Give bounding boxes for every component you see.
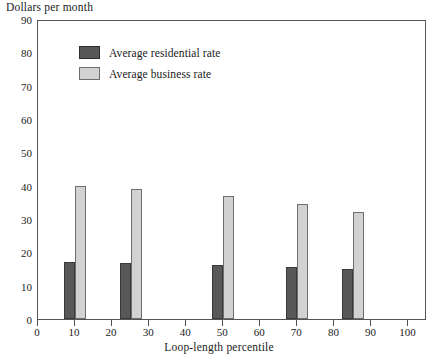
y-tick-label: 60 (8, 114, 32, 126)
bar-business (353, 212, 364, 319)
legend-label: Average business rate (109, 68, 211, 80)
legend-swatch-residential (79, 46, 100, 59)
bar-residential (286, 267, 297, 319)
legend-item: Average business rate (79, 64, 269, 83)
chart-figure: Dollars per month 0102030405060708090 Av… (0, 0, 438, 361)
legend-item: Average residential rate (79, 43, 269, 62)
chart-legend: Average residential rateAverage business… (79, 43, 269, 85)
x-tick-label: 60 (254, 326, 265, 338)
bar-residential (64, 262, 75, 319)
x-axis-tick-labels: 0102030405060708090100 (37, 326, 426, 342)
x-tick-label: 0 (34, 326, 40, 338)
x-tick-label: 80 (328, 326, 339, 338)
x-tick-label: 10 (69, 326, 80, 338)
bar-business (131, 189, 142, 319)
x-tick-label: 70 (291, 326, 302, 338)
x-tick-label: 40 (180, 326, 191, 338)
x-tick-label: 90 (365, 326, 376, 338)
x-tick-label: 100 (399, 326, 416, 338)
y-tick-label: 20 (8, 247, 32, 259)
bar-business (75, 186, 86, 319)
y-tick-label: 50 (8, 147, 32, 159)
y-tick-label: 80 (8, 47, 32, 59)
plot-area: Average residential rateAverage business… (37, 20, 426, 320)
y-axis-tick-labels: 0102030405060708090 (0, 20, 32, 320)
bar-residential (342, 269, 353, 319)
x-axis-title: Loop-length percentile (0, 341, 438, 353)
bar-residential (120, 263, 131, 319)
y-tick-label: 30 (8, 214, 32, 226)
y-tick-label: 0 (8, 314, 32, 326)
y-tick-label: 90 (8, 14, 32, 26)
bar-business (297, 204, 308, 319)
y-tick-label: 10 (8, 281, 32, 293)
x-tick-label: 20 (106, 326, 117, 338)
chart-title: Dollars per month (6, 1, 93, 13)
x-tick-label: 30 (143, 326, 154, 338)
legend-label: Average residential rate (109, 47, 220, 59)
x-tick-label: 50 (217, 326, 228, 338)
bar-residential (212, 265, 223, 319)
legend-swatch-business (79, 67, 100, 80)
y-tick-label: 40 (8, 181, 32, 193)
y-tick-label: 70 (8, 81, 32, 93)
bar-business (223, 196, 234, 319)
